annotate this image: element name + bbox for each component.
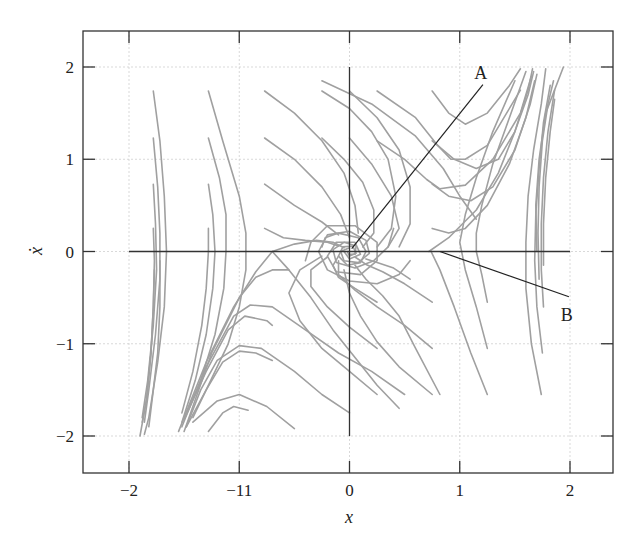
trajectory-right-mid-3 <box>431 252 487 395</box>
x-tick-label: −2 <box>120 481 138 500</box>
trajectory-upper-left-3 <box>265 184 339 235</box>
trajectory-upper-right-3 <box>377 76 531 189</box>
y-tick-label: −2 <box>56 427 74 446</box>
trajectory-upper-right-6 <box>432 74 537 200</box>
y-tick-label: 2 <box>66 58 75 77</box>
trajectory-stable-manifold-left <box>179 252 273 432</box>
trajectory-far-left-2 <box>144 138 160 422</box>
trajectory-lower-left-8 <box>272 252 399 409</box>
trajectory-left-2 <box>184 138 226 419</box>
y-tick-label: 0 <box>66 243 75 262</box>
trajectory-lower-left-6 <box>182 305 405 427</box>
trajectory-upper-mid-3 <box>350 91 411 247</box>
annotation-label-b: B <box>561 305 573 325</box>
y-axis-label: ẋ <box>26 247 46 256</box>
trajectory-right-mid-1 <box>476 72 526 303</box>
x-tick-label: 0 <box>345 481 354 500</box>
annotation-leader-b <box>440 252 569 297</box>
annotation-label-a: A <box>474 63 487 83</box>
x-tick-label: 2 <box>566 481 575 500</box>
y-tick-label: −1 <box>56 335 74 354</box>
x-axis-label: x <box>344 507 353 527</box>
x-tick-label: −11 <box>226 481 252 500</box>
trajectory-lower-right-7 <box>355 265 440 394</box>
phase-portrait-chart: −2−11012−2−1012 AB x ẋ <box>0 0 639 555</box>
y-tick-label: 1 <box>66 150 75 169</box>
trajectory-left-4 <box>182 228 209 413</box>
trajectory-right-mid-2 <box>460 81 515 349</box>
trajectory-lower-left-1 <box>208 407 248 432</box>
x-tick-label: 1 <box>456 481 465 500</box>
trajectory-upper-left-1 <box>265 91 359 233</box>
trajectory-left-1 <box>186 91 246 427</box>
trajectory-lower-left-2 <box>193 395 295 429</box>
